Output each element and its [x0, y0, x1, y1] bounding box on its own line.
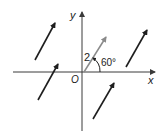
vector-upper-left [35, 23, 55, 60]
origin-label: O [71, 74, 79, 85]
vector-lower-left [38, 64, 58, 100]
angle-arc [93, 58, 100, 72]
x-axis-label: x [147, 74, 154, 86]
magnitude-label: 2 [84, 51, 90, 63]
vector-lower-right [93, 83, 114, 119]
vector-upper-right [126, 30, 147, 67]
angle-label: 60° [101, 57, 116, 68]
vector-diagram: y x O 2 60° [0, 0, 163, 138]
y-axis-label: y [69, 9, 77, 21]
